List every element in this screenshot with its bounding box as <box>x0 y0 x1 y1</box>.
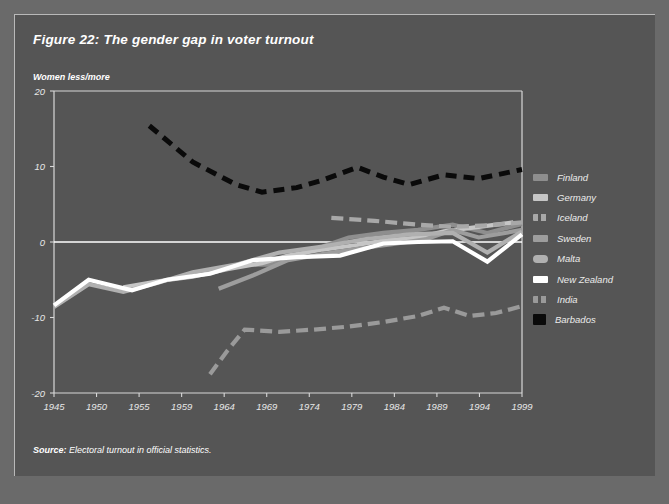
x-tick-label: 1969 <box>256 401 278 412</box>
legend-swatch-icon <box>533 276 548 283</box>
legend-item[interactable]: Malta <box>533 249 653 269</box>
legend-swatch-icon <box>533 255 548 263</box>
x-tick-label: 1945 <box>43 401 65 412</box>
figure-root: Figure 22: The gender gap in voter turno… <box>0 0 669 504</box>
legend-item[interactable]: Germany <box>533 187 653 207</box>
x-tick-label: 1964 <box>214 401 235 412</box>
legend-swatch-icon <box>533 235 548 242</box>
legend-swatch-icon <box>533 194 548 201</box>
legend-item[interactable]: New Zealand <box>533 269 653 289</box>
y-tick-label: 10 <box>34 161 45 172</box>
chart-legend: FinlandGermanyIcelandSwedenMaltaNew Zeal… <box>533 167 653 330</box>
figure-panel: Figure 22: The gender gap in voter turno… <box>14 14 655 476</box>
source-text: Electoral turnout in official statistics… <box>67 445 212 455</box>
legend-item-label: Malta <box>557 253 580 264</box>
legend-item-label: Finland <box>557 172 588 183</box>
y-tick-label: -10 <box>31 312 45 323</box>
series-line-india <box>210 306 522 374</box>
legend-item-label: Germany <box>557 192 596 203</box>
legend-item[interactable]: Sweden <box>533 228 653 248</box>
legend-item[interactable]: India <box>533 289 653 309</box>
source-label: Source: <box>33 445 67 455</box>
y-tick-label: 20 <box>33 86 45 97</box>
x-tick-label: 1979 <box>341 401 363 412</box>
legend-swatch-icon <box>533 296 548 303</box>
x-tick-label: 1999 <box>511 401 533 412</box>
x-tick-label: 1955 <box>129 401 151 412</box>
series-line-barbados <box>149 126 522 192</box>
series-line-iceland <box>331 218 522 227</box>
legend-item[interactable]: Barbados <box>533 310 653 330</box>
legend-item-label: New Zealand <box>557 274 613 285</box>
legend-item-label: Sweden <box>557 233 591 244</box>
x-tick-label: 1959 <box>171 401 193 412</box>
x-tick-label: 1950 <box>86 401 108 412</box>
legend-item[interactable]: Iceland <box>533 208 653 228</box>
x-tick-label: 1984 <box>384 401 405 412</box>
legend-swatch-icon <box>533 314 546 325</box>
legend-swatch-icon <box>533 174 548 181</box>
source-note: Source: Electoral turnout in official st… <box>33 445 212 455</box>
x-tick-label: 1994 <box>469 401 490 412</box>
series-line-new-zealand <box>54 234 522 305</box>
legend-item-label: Iceland <box>557 212 588 223</box>
y-tick-label: -20 <box>31 388 45 399</box>
x-tick-label: 1989 <box>426 401 448 412</box>
legend-item[interactable]: Finland <box>533 167 653 187</box>
legend-swatch-icon <box>533 214 548 221</box>
y-tick-label: 0 <box>40 237 46 248</box>
legend-item-label: Barbados <box>555 314 596 325</box>
x-tick-label: 1974 <box>299 401 320 412</box>
legend-item-label: India <box>557 294 578 305</box>
